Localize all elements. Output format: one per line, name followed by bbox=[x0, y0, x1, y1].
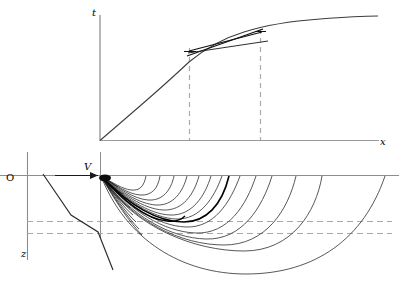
chord-segment-lower bbox=[187, 29, 263, 56]
travel-time-curve bbox=[100, 16, 378, 141]
origin-label: O bbox=[6, 172, 14, 183]
depth-axis-label: z bbox=[20, 248, 27, 259]
travel-time-panel: t x bbox=[92, 7, 386, 147]
chord-segment-cross bbox=[188, 41, 268, 53]
x-axis-label: x bbox=[380, 136, 386, 147]
figure-root: t x bbox=[0, 0, 399, 282]
seismic-figure-svg: t x bbox=[0, 0, 399, 282]
source-focal-blot bbox=[99, 175, 111, 182]
t-axis-label: t bbox=[92, 7, 97, 18]
ray-path-11 bbox=[101, 176, 272, 239]
ray-path-panel: O V z bbox=[0, 152, 399, 274]
ray-path-12 bbox=[101, 176, 296, 245]
velocity-arrow-head bbox=[90, 172, 98, 179]
ray-path-13 bbox=[101, 176, 322, 251]
chord-segment-upper bbox=[189, 32, 262, 51]
velocity-label: V bbox=[84, 161, 93, 172]
